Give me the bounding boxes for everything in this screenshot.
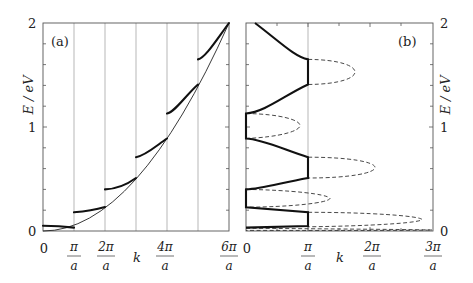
panel-b-y-label-1: 1 xyxy=(440,120,448,135)
a-x-label-4pi-num: 4π xyxy=(156,240,174,254)
panel-b-label: (b) xyxy=(398,34,416,49)
a-x-label-0: 0 xyxy=(40,241,48,256)
panel-b-y-label-2: 2 xyxy=(440,16,448,31)
panel-b-y-tick-labels: 2 1 0 xyxy=(440,16,448,239)
panel-b-x-tick-labels: 0 π a k 2π a 3π a xyxy=(243,240,442,273)
panel-a-x-axis-title: k xyxy=(133,250,141,265)
a-x-label-6pi-den: a xyxy=(225,259,232,273)
panel-a-y-axis-title: E / eV xyxy=(21,74,36,116)
panel-b-y-axis-title: E / eV xyxy=(438,74,453,116)
b-x-label-pi-den: a xyxy=(304,259,311,273)
band-structure-figure: (a) xyxy=(0,0,473,283)
panel-a-y-label-2: 2 xyxy=(28,16,36,31)
panel-b-bands xyxy=(246,23,308,228)
panel-a-y-label-1: 1 xyxy=(28,120,36,135)
panel-b-y-label-0: 0 xyxy=(440,224,448,239)
panel-a-gridlines xyxy=(74,23,198,231)
panel-a-x-tick-labels: 0 π a 2π a k 4π a 6π a xyxy=(40,240,238,273)
a-x-label-pi-den: a xyxy=(70,259,77,273)
panel-a-y-tick-labels: 2 1 0 xyxy=(28,16,36,239)
a-x-label-pi-num: π xyxy=(69,240,79,254)
panel-a: (a) xyxy=(43,23,229,231)
a-x-label-6pi-num: 6π xyxy=(221,240,238,254)
b-x-label-0: 0 xyxy=(243,241,251,256)
panel-b-frame xyxy=(246,23,433,231)
panel-b-ticks xyxy=(246,23,433,231)
b-x-label-2pi-den: a xyxy=(368,259,375,273)
panel-b-x-axis-title: k xyxy=(336,250,344,265)
a-x-label-4pi-den: a xyxy=(161,259,168,273)
panel-a-label: (a) xyxy=(51,34,69,49)
b-x-label-pi-num: π xyxy=(303,240,313,254)
panel-a-y-label-0: 0 xyxy=(28,224,36,239)
b-x-label-2pi-num: 2π xyxy=(363,240,381,254)
a-x-label-2pi-num: 2π xyxy=(97,240,115,254)
b-x-label-3pi-den: a xyxy=(429,259,436,273)
b-x-label-3pi-num: 3π xyxy=(425,240,442,254)
panel-b: (b) xyxy=(246,23,433,231)
a-x-label-2pi-den: a xyxy=(102,259,109,273)
